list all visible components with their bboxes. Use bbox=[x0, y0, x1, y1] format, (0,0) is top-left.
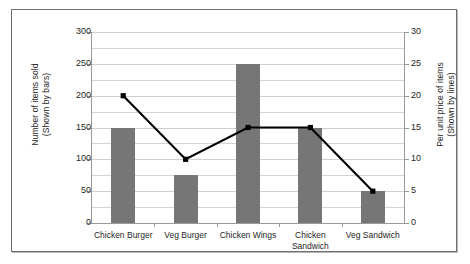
x-category-label: Chicken Burger bbox=[92, 230, 154, 241]
left-axis-tick-label: 300 bbox=[51, 27, 91, 36]
right-axis-tick bbox=[405, 191, 409, 192]
left-axis-tick-label: 0 bbox=[51, 218, 91, 227]
x-category-label: Chicken Wings bbox=[217, 230, 279, 241]
chart-figure: Number of items sold (Shown by bars) Per… bbox=[0, 0, 470, 264]
left-axis-tick-label: 150 bbox=[51, 123, 91, 132]
right-axis-tick-label: 0 bbox=[411, 218, 451, 227]
line-marker-0 bbox=[121, 93, 126, 98]
left-axis-title: Number of items sold (Shown by bars) bbox=[30, 30, 51, 180]
price-line-markers bbox=[121, 93, 376, 194]
line-series-layer bbox=[92, 32, 404, 223]
line-marker-1 bbox=[183, 157, 188, 162]
left-axis-tick-label: 100 bbox=[51, 154, 91, 163]
chart-frame-border: Number of items sold (Shown by bars) Per… bbox=[11, 9, 457, 252]
plot-area: 050100150200250300051015202530 Chicken B… bbox=[92, 32, 404, 223]
left-axis-tick-label: 200 bbox=[51, 91, 91, 100]
left-axis-tick-label: 50 bbox=[51, 186, 91, 195]
line-marker-4 bbox=[370, 189, 375, 194]
right-axis-tick bbox=[405, 159, 409, 160]
right-axis-tick bbox=[405, 64, 409, 65]
right-axis-spine bbox=[404, 32, 405, 224]
right-axis-tick bbox=[405, 96, 409, 97]
price-line bbox=[123, 96, 373, 192]
x-axis-baseline bbox=[92, 223, 404, 224]
x-category-label: Veg Burger bbox=[154, 230, 216, 241]
right-axis-tick-label: 10 bbox=[411, 154, 451, 163]
right-axis-tick-label: 20 bbox=[411, 91, 451, 100]
line-marker-2 bbox=[245, 125, 250, 130]
right-axis-tick-label: 5 bbox=[411, 186, 451, 195]
right-axis-tick-label: 30 bbox=[411, 27, 451, 36]
right-axis-tick-label: 25 bbox=[411, 59, 451, 68]
right-axis-tick bbox=[405, 223, 409, 224]
right-axis-tick bbox=[405, 128, 409, 129]
x-category-label: Chicken Sandwich bbox=[279, 230, 341, 252]
line-marker-3 bbox=[308, 125, 313, 130]
right-axis-tick-label: 15 bbox=[411, 123, 451, 132]
left-axis-tick-label: 250 bbox=[51, 59, 91, 68]
right-axis-tick bbox=[405, 32, 409, 33]
x-category-label: Veg Sandwich bbox=[342, 230, 404, 241]
